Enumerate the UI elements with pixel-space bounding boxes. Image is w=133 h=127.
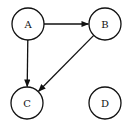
node-b: B xyxy=(89,8,121,40)
edge-a-to-c xyxy=(27,40,28,87)
node-label: C xyxy=(23,98,31,109)
node-d: D xyxy=(89,87,121,119)
edge-b-to-c xyxy=(39,35,94,91)
node-label: B xyxy=(101,19,108,30)
node-a: A xyxy=(12,8,44,40)
node-label: A xyxy=(23,19,32,30)
node-label: D xyxy=(101,98,109,109)
directed-graph: ABCD xyxy=(0,0,133,127)
node-c: C xyxy=(11,87,43,119)
